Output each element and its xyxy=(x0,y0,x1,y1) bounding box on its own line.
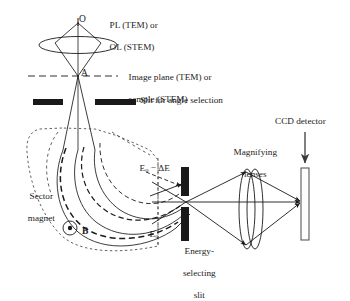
energy-slit-label-line2: selecting xyxy=(183,268,216,278)
crossover-point-a-label: A xyxy=(81,68,88,78)
sector-magnet-label: Sector magnet xyxy=(10,180,68,224)
energy-slit-label-line3: slit xyxy=(194,290,205,300)
ccd-detector-body xyxy=(301,168,309,240)
sector-magnet-label-line1: Sector xyxy=(30,191,53,201)
energy-slit-bar-upper xyxy=(181,167,189,196)
projector-lens-label: PL (TEM) or OL (STEM) xyxy=(105,9,158,53)
sector-magnet-label-line2: magnet xyxy=(28,213,55,223)
energy-loss-delta: − ΔE xyxy=(149,163,170,173)
magnifying-lenses-label: Magnifying lenses xyxy=(215,136,291,180)
image-plane-label-line1: Image plane (TEM) or xyxy=(129,72,212,82)
magnetic-field-dot-icon xyxy=(68,226,72,230)
zero-loss-subscript: o xyxy=(155,232,158,239)
angle-slit-bar-left xyxy=(33,99,63,105)
ray-diverge-right xyxy=(78,76,95,150)
zero-loss-beam-label: Eo xyxy=(145,218,159,241)
magnetic-field-label: B xyxy=(82,226,88,236)
projector-lens-label-line2: OL (STEM) xyxy=(110,42,155,52)
incoming-beam-upper xyxy=(152,182,186,202)
projector-lens-label-line1: PL (TEM) or xyxy=(110,20,158,30)
ray-diverge-left xyxy=(63,76,78,150)
angle-slit-label: Slit for angle selection xyxy=(140,95,223,106)
energy-selecting-slit-label: Energy- selecting slit xyxy=(165,235,229,301)
energy-loss-beam-label: Eo − ΔE xyxy=(135,152,170,175)
ray-left-to-crossover xyxy=(55,23,78,76)
object-point-o-label: O xyxy=(79,14,86,24)
magnifying-lenses-label-line1: Magnifying xyxy=(234,147,277,157)
magnifying-lenses-label-line2: lenses xyxy=(244,169,266,179)
ccd-detector-label: CCD detector xyxy=(275,116,326,127)
energy-slit-label-line1: Energy- xyxy=(185,246,214,256)
